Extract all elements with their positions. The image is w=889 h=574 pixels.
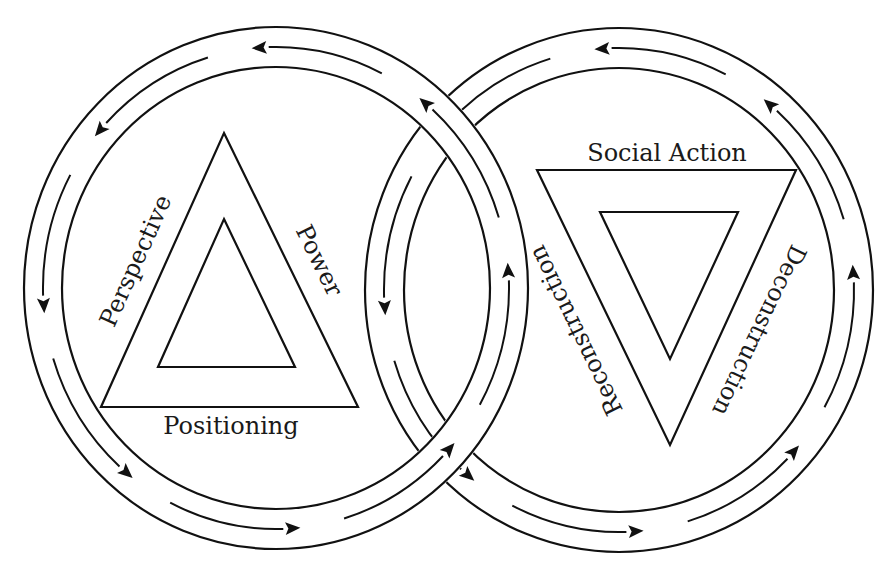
- right-triangle: Social Action Reconstruction Deconstruct…: [523, 139, 812, 445]
- label-social-action: Social Action: [587, 139, 747, 167]
- label-power: Power: [290, 220, 349, 301]
- label-reconstruction: Reconstruction: [523, 241, 629, 420]
- label-perspective: Perspective: [94, 191, 177, 331]
- label-positioning: Positioning: [163, 412, 298, 440]
- left-triangle: Perspective Power Positioning: [94, 133, 358, 440]
- right-triangle-inner: [600, 212, 738, 359]
- left-triangle-inner: [158, 219, 295, 367]
- left-cycle: [24, 27, 528, 549]
- critical-literacy-cycle-diagram: Perspective Power Positioning Social Act…: [0, 0, 889, 574]
